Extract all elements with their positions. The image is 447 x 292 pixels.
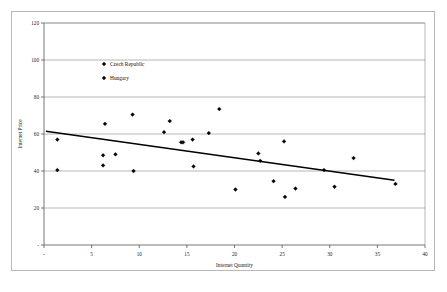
data-point-s2-4 <box>282 140 286 144</box>
y-tick-label-0: - <box>37 242 39 248</box>
data-point-s1-6 <box>131 113 135 117</box>
data-point-s2-9 <box>352 156 356 160</box>
data-point-s1-5 <box>114 152 118 156</box>
y-tick-label-1: 20 <box>34 205 40 211</box>
y-tick-label-5: 100 <box>31 57 39 63</box>
data-point-s2-1 <box>256 152 260 156</box>
x-tick-label-5: 25 <box>280 251 286 257</box>
data-point-s1-8 <box>162 130 166 134</box>
y-axis-title: Internet Price <box>17 119 23 149</box>
chart-figure: -20406080100120-510152025303540Internet … <box>0 0 447 292</box>
data-point-s1-0 <box>55 138 59 142</box>
data-point-s2-10 <box>394 182 398 186</box>
data-point-s1-13 <box>192 164 196 168</box>
data-point-s1-1 <box>55 168 59 172</box>
trendline <box>46 131 395 180</box>
x-tick-label-3: 15 <box>184 251 190 257</box>
y-tick-label-6: 120 <box>31 20 39 26</box>
x-tick-label-7: 35 <box>375 251 381 257</box>
legend: Czech RepublicHungary <box>102 61 145 81</box>
data-point-s2-8 <box>333 185 337 189</box>
gridlines <box>44 23 425 208</box>
legend-marker-2 <box>102 76 106 80</box>
scatter-plot-svg: -20406080100120-510152025303540Internet … <box>0 0 447 292</box>
x-tick-label-6: 30 <box>327 251 333 257</box>
y-tick-label-2: 40 <box>34 168 40 174</box>
x-axis-title: Internet Quantity <box>216 262 253 268</box>
data-point-s2-5 <box>283 195 287 199</box>
data-point-s1-9 <box>168 119 172 123</box>
data-point-s1-2 <box>101 153 105 157</box>
x-tick-label-2: 10 <box>137 251 143 257</box>
legend-label-1: Czech Republic <box>110 61 145 67</box>
legend-item-1: Czech Republic <box>102 61 145 67</box>
data-point-s1-3 <box>101 164 105 168</box>
data-point-s1-4 <box>103 122 107 126</box>
x-tick-label-0: - <box>43 251 45 257</box>
x-tick-label-1: 5 <box>90 251 93 257</box>
x-tick-label-8: 40 <box>422 251 428 257</box>
y-tick-label-4: 80 <box>34 94 40 100</box>
data-point-s2-6 <box>294 187 298 191</box>
data-point-s1-15 <box>217 107 221 111</box>
data-point-s1-7 <box>132 169 136 173</box>
legend-marker-1 <box>102 62 106 66</box>
data-point-s2-0 <box>234 188 238 192</box>
data-point-s1-12 <box>191 138 195 142</box>
data-point-s1-14 <box>207 131 211 135</box>
legend-label-2: Hungary <box>110 75 129 81</box>
data-point-s2-3 <box>272 179 276 183</box>
series-1-points <box>55 107 221 173</box>
legend-item-2: Hungary <box>102 75 129 81</box>
x-tick-label-4: 20 <box>232 251 238 257</box>
y-tick-label-3: 60 <box>34 131 40 137</box>
